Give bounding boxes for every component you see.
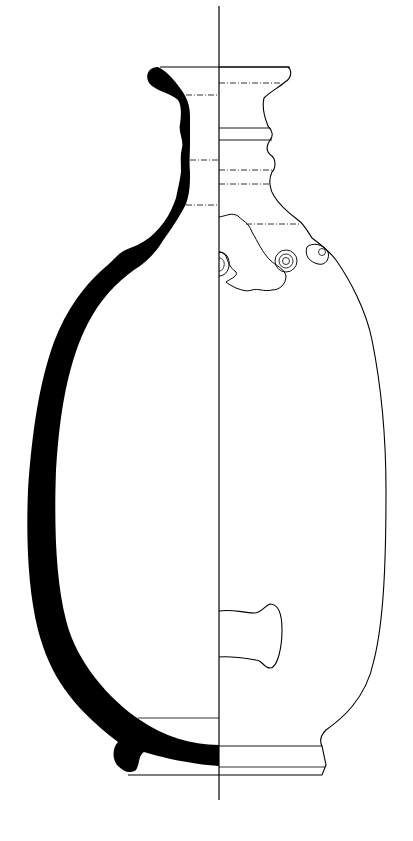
broken-area-outline bbox=[219, 214, 286, 291]
vessel-profile-drawing bbox=[0, 0, 413, 841]
exterior-outline bbox=[219, 67, 386, 775]
lug-handle bbox=[219, 604, 282, 668]
section-profile bbox=[27, 67, 219, 772]
stamped-boss bbox=[275, 250, 297, 272]
applied-boss bbox=[306, 244, 328, 264]
boss-partial-left-inner bbox=[219, 258, 224, 271]
